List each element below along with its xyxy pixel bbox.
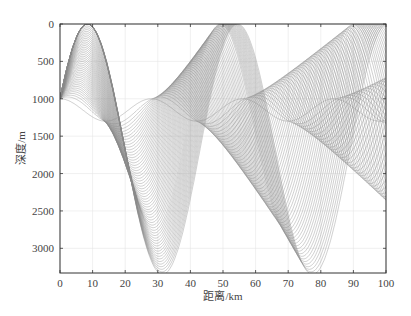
y-tick-label: 500: [38, 55, 55, 67]
y-tick-label: 3000: [32, 242, 55, 254]
x-tick-label: 10: [87, 277, 99, 289]
x-tick-label: 80: [315, 277, 327, 289]
x-tick-label: 40: [185, 277, 197, 289]
x-tick-label: 0: [57, 277, 63, 289]
y-axis-title: 深度/m: [14, 131, 27, 165]
x-tick-label: 30: [152, 277, 164, 289]
ray-trace-chart: 0102030405060708090100 05001000150020002…: [0, 0, 411, 316]
x-axis-title: 距离/km: [203, 289, 243, 302]
y-tick-label: 2500: [32, 205, 55, 217]
y-tick-label: 1500: [32, 130, 55, 142]
x-tick-label: 90: [348, 277, 360, 289]
y-tick-label: 2000: [32, 168, 55, 180]
y-tick-label: 0: [49, 18, 55, 30]
grid-lines: [60, 24, 386, 273]
x-tick-label: 20: [120, 277, 132, 289]
x-tick-label: 70: [283, 277, 295, 289]
y-tick-label: 1000: [32, 93, 55, 105]
x-tick-label: 100: [378, 277, 395, 289]
x-tick-label: 60: [250, 277, 262, 289]
x-tick-label: 50: [218, 277, 230, 289]
